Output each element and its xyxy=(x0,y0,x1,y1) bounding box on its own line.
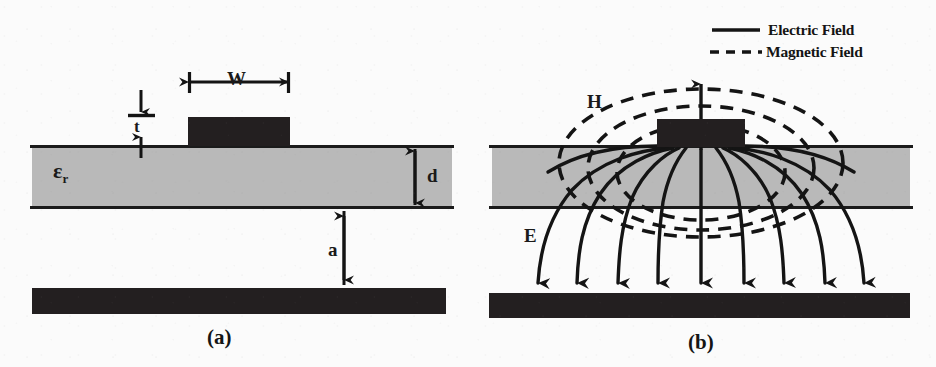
label-electric-field: E xyxy=(524,226,537,245)
legend-label-electric-field: Electric Field xyxy=(768,21,854,39)
ground-plane-b xyxy=(489,293,910,318)
figure-root: W t εr d a (a) H E (b) Electric Field Ma… xyxy=(0,0,936,367)
substrate-a xyxy=(32,146,452,208)
strip-conductor-a xyxy=(188,117,290,146)
caption-panel-a: (a) xyxy=(207,325,232,350)
label-substrate-height: d xyxy=(427,166,438,185)
caption-panel-b: (b) xyxy=(688,330,714,355)
legend-label-magnetic-field: Magnetic Field xyxy=(766,43,863,61)
panel-a xyxy=(30,72,454,314)
label-relative-permittivity: εr xyxy=(53,160,68,185)
epsilon-subscript: r xyxy=(62,171,68,186)
label-air-gap: a xyxy=(328,240,338,259)
label-magnetic-field: H xyxy=(587,92,602,111)
ground-plane-a xyxy=(32,288,446,314)
label-strip-thickness: t xyxy=(134,118,140,135)
strip-conductor-b xyxy=(657,119,745,147)
label-strip-width: W xyxy=(227,69,246,88)
panel-b xyxy=(489,84,913,318)
legend xyxy=(710,30,762,52)
epsilon-glyph: ε xyxy=(53,158,62,183)
